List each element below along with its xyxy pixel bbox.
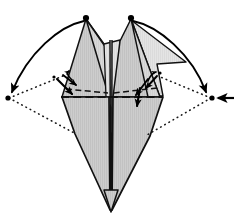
lower-body-left-panel	[62, 97, 110, 210]
right-target-dot	[209, 95, 214, 100]
origami-diagram: Origami folding step diagram paper model…	[0, 0, 235, 220]
left-inner-pivot-dot	[52, 75, 55, 78]
origami-illustration	[0, 0, 235, 220]
right-inner-pivot-dot	[158, 71, 161, 74]
center-spine-crease	[110, 40, 112, 211]
right-apex-dot	[128, 15, 134, 21]
left-target-dot	[5, 95, 10, 100]
lower-body-right-panel	[112, 97, 163, 210]
left-apex-dot	[83, 15, 89, 21]
